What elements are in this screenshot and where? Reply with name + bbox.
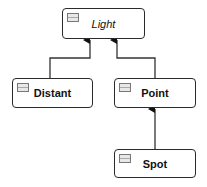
class-box-point: Point xyxy=(114,78,196,108)
class-label-spot: Spot xyxy=(115,158,195,170)
class-label-light: Light xyxy=(63,18,144,30)
class-box-spot: Spot xyxy=(114,149,196,178)
edge-distant-light xyxy=(50,40,90,78)
class-box-distant: Distant xyxy=(12,78,93,108)
class-label-point: Point xyxy=(115,87,195,99)
class-box-light: Light xyxy=(62,8,145,39)
edge-point-light xyxy=(117,40,155,78)
class-label-distant: Distant xyxy=(13,87,92,99)
